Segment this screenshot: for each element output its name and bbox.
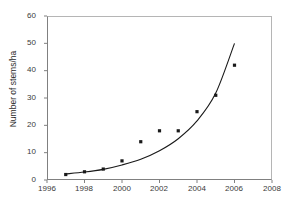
trend-line [66, 43, 235, 174]
data-point [214, 94, 217, 97]
data-point [83, 170, 86, 173]
chart-figure: Number of stems/ha 60 50 40 30 20 10 0 1… [0, 0, 288, 209]
chart-canvas [0, 0, 288, 209]
x-axis-ticks [47, 180, 272, 183]
y-axis-ticks [44, 16, 47, 180]
data-point [195, 110, 198, 113]
data-point [64, 173, 67, 176]
data-point [102, 167, 105, 170]
data-point [177, 129, 180, 132]
data-point [139, 140, 142, 143]
data-point [120, 159, 123, 162]
data-point [158, 129, 161, 132]
data-point-markers [64, 64, 236, 177]
data-point [233, 64, 236, 67]
